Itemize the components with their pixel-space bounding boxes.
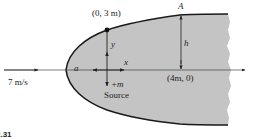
figure-number-label: 2.31: [0, 131, 12, 138]
y-axis-label: y: [111, 40, 115, 49]
point-0-3m-marker: [105, 28, 110, 33]
point-a-label: A: [178, 2, 184, 11]
stagnation-point-label: a: [74, 64, 79, 73]
point-0-3m-label: (0, 3 m): [92, 9, 121, 18]
half-body-region: [66, 14, 231, 125]
freestream-speed-label: 7 m/s: [8, 78, 28, 87]
source-label: Source: [104, 91, 129, 100]
x-point-label: (4m, 0): [167, 74, 194, 83]
source-strength-label: +m: [111, 80, 124, 89]
height-label: h: [184, 39, 189, 48]
rankine-half-body-diagram: [0, 0, 256, 138]
x-axis-label: x: [124, 58, 128, 67]
